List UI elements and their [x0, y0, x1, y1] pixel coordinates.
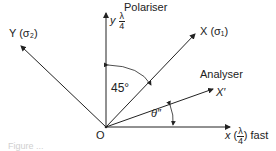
polariser-label: Polariser [124, 2, 167, 13]
Y-sigma2-label: Y (σ₂) [9, 28, 38, 39]
x-axis-fast-label: fast [250, 129, 268, 141]
x-frac-den: 4 [237, 137, 244, 146]
y-axis-fraction: λ 4 [119, 12, 126, 31]
angle-45-label: 45° [111, 82, 129, 94]
X-sigma1-label: X (σ₁) [200, 26, 228, 37]
figure-caption: Figure ... [8, 141, 44, 151]
Y-sigma2-axis-line [21, 46, 106, 127]
y-frac-den: 4 [119, 22, 126, 31]
x-axis-fraction: λ4 [237, 127, 244, 146]
analyser-label: Analyser [200, 69, 243, 80]
origin-point [105, 126, 108, 129]
x-axis-label: x (λ4) fast [225, 127, 268, 146]
y-axis-letter: y [110, 14, 116, 26]
angle-theta-arc [170, 105, 173, 125]
y-axis-label: y λ 4 [110, 12, 125, 31]
X-prime-label: X′ [216, 87, 225, 98]
x-axis-letter: x [225, 129, 231, 141]
origin-label: O [96, 130, 105, 141]
angle-theta-label: θ″ [151, 108, 161, 119]
